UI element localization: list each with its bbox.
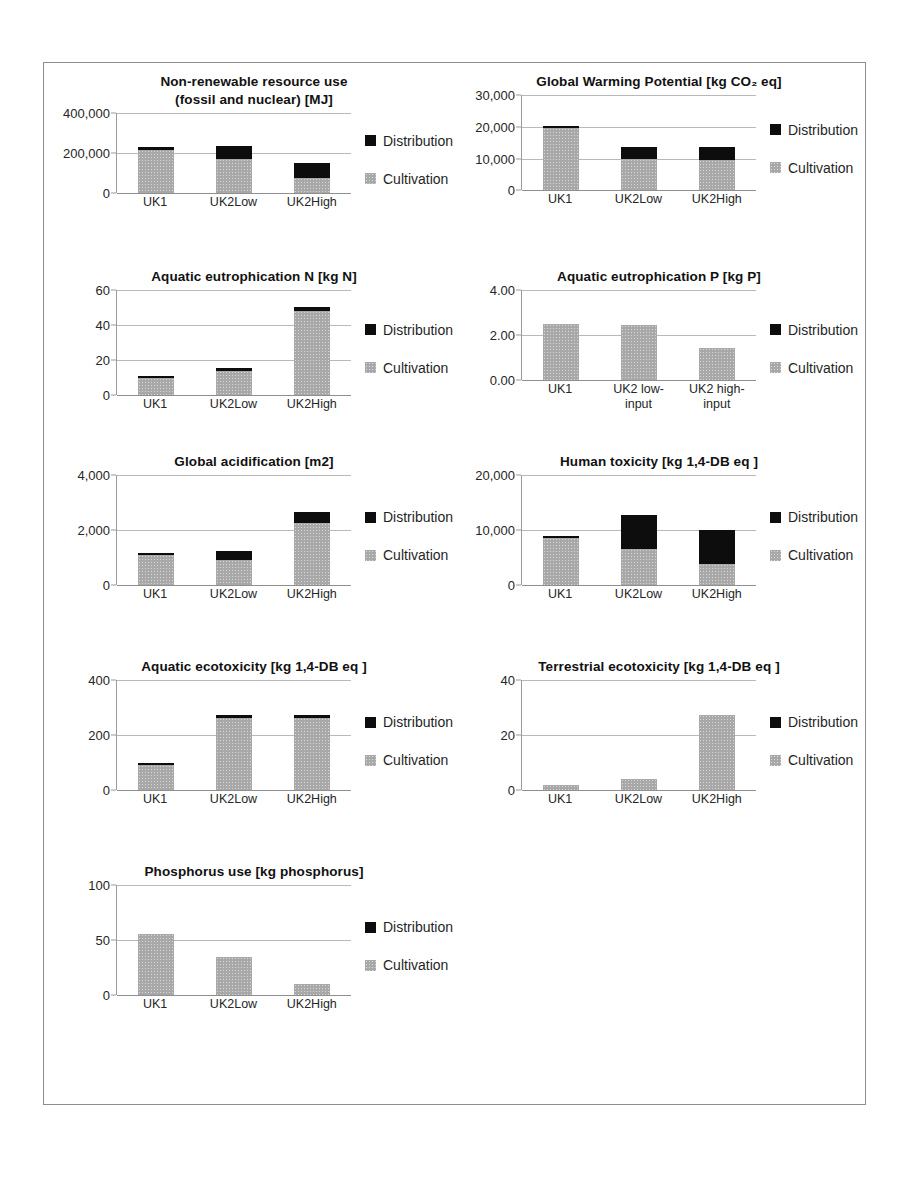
bar-segment-cultivation <box>138 378 174 396</box>
bar-segment-cultivation <box>294 523 330 585</box>
stacked-bar[interactable] <box>621 779 657 790</box>
legend-item-distribution[interactable]: Distribution <box>770 122 858 138</box>
stacked-bar[interactable] <box>138 553 174 585</box>
x-axis-line <box>522 190 756 191</box>
x-axis-line <box>117 995 351 996</box>
legend-swatch-cultivation-icon <box>365 960 376 971</box>
stacked-bar[interactable] <box>138 763 174 790</box>
y-tick-label: 40 <box>96 318 110 333</box>
stacked-bar[interactable] <box>216 368 252 396</box>
legend-item-cultivation[interactable]: Cultivation <box>365 957 453 973</box>
legend-swatch-distribution-icon <box>770 512 781 523</box>
bar-segment-cultivation <box>216 957 252 996</box>
stacked-bar[interactable] <box>699 715 735 791</box>
x-tick-label: UK2High <box>273 792 351 806</box>
y-tick-label: 0 <box>103 783 110 798</box>
bar-segment-cultivation <box>138 555 174 585</box>
plot-area-global-warming-potential: 010,00020,00030,000 <box>459 95 756 190</box>
legend-item-distribution[interactable]: Distribution <box>365 714 453 730</box>
stacked-bar[interactable] <box>621 515 657 585</box>
stacked-bar[interactable] <box>699 348 735 381</box>
plot-canvas-phosphorus-use <box>116 885 351 995</box>
x-axis-human-toxicity: UK1UK2LowUK2High <box>521 587 756 601</box>
x-tick-label: UK2Low <box>194 792 272 806</box>
bar-slot <box>273 290 351 395</box>
bar-segment-cultivation <box>699 348 735 381</box>
legend-aquatic-ecotoxicity: DistributionCultivation <box>351 714 453 768</box>
legend-item-distribution[interactable]: Distribution <box>770 509 858 525</box>
legend-label-cultivation: Cultivation <box>788 360 853 376</box>
x-tick-label: UK2 high- input <box>678 382 756 411</box>
y-tick-label: 400 <box>88 673 110 688</box>
legend-item-distribution[interactable]: Distribution <box>365 322 453 338</box>
stacked-bar[interactable] <box>543 536 579 585</box>
stacked-bar[interactable] <box>216 146 252 193</box>
stacked-bar[interactable] <box>699 530 735 586</box>
legend-item-cultivation[interactable]: Cultivation <box>365 360 453 376</box>
bar-slot <box>600 475 678 585</box>
chart-title-aquatic-eutrophication-p: Aquatic eutrophication P [kg P] <box>459 268 859 286</box>
stacked-bar[interactable] <box>621 147 657 191</box>
stacked-bar[interactable] <box>138 934 174 996</box>
stacked-bar[interactable] <box>294 715 330 791</box>
stacked-bar[interactable] <box>294 512 330 585</box>
stacked-bar[interactable] <box>216 551 252 585</box>
plot-area-global-acidification: 02,0004,000 <box>54 475 351 585</box>
stacked-bar[interactable] <box>294 984 330 995</box>
x-axis-global-warming-potential: UK1UK2LowUK2High <box>521 192 756 206</box>
bar-slot <box>117 680 195 790</box>
legend-item-cultivation[interactable]: Cultivation <box>770 752 858 768</box>
legend-item-cultivation[interactable]: Cultivation <box>770 160 858 176</box>
legend-item-distribution[interactable]: Distribution <box>365 509 453 525</box>
bar-segment-cultivation <box>543 128 579 190</box>
stacked-bar[interactable] <box>699 147 735 191</box>
stacked-bar[interactable] <box>138 147 174 193</box>
stacked-bar[interactable] <box>138 376 174 396</box>
stacked-bar[interactable] <box>543 126 579 190</box>
bar-group-phosphorus-use <box>117 885 351 995</box>
stacked-bar[interactable] <box>621 325 657 380</box>
legend-swatch-distribution-icon <box>770 324 781 335</box>
plot-area-phosphorus-use: 050100 <box>54 885 351 995</box>
legend-item-distribution[interactable]: Distribution <box>770 322 858 338</box>
chart-body-phosphorus-use: 050100UK1UK2LowUK2HighDistributionCultiv… <box>54 885 454 1011</box>
bar-segment-cultivation <box>216 560 252 585</box>
bar-segment-distribution <box>216 551 252 561</box>
legend-item-cultivation[interactable]: Cultivation <box>365 547 453 563</box>
bar-segment-distribution <box>621 147 657 160</box>
x-axis-line <box>522 380 756 381</box>
stacked-bar[interactable] <box>216 715 252 790</box>
y-tick-label: 2.00 <box>490 328 515 343</box>
bar-slot <box>600 95 678 190</box>
y-tick-label: 20 <box>96 353 110 368</box>
legend-label-distribution: Distribution <box>788 122 858 138</box>
legend-label-cultivation: Cultivation <box>788 160 853 176</box>
plot-area-non-renewable-resource-use: 0200,000400,000 <box>54 113 351 193</box>
legend-label-cultivation: Cultivation <box>383 957 448 973</box>
legend-item-distribution[interactable]: Distribution <box>365 133 453 149</box>
legend-item-distribution[interactable]: Distribution <box>770 714 858 730</box>
legend-item-cultivation[interactable]: Cultivation <box>365 752 453 768</box>
stacked-bar[interactable] <box>543 785 579 791</box>
plot-column-global-acidification: 02,0004,000UK1UK2LowUK2High <box>54 475 351 601</box>
x-tick-label: UK2Low <box>194 997 272 1011</box>
stacked-bar[interactable] <box>543 324 579 380</box>
x-axis-global-acidification: UK1UK2LowUK2High <box>116 587 351 601</box>
legend-item-cultivation[interactable]: Cultivation <box>365 171 453 187</box>
x-tick-label: UK2 low- input <box>599 382 677 411</box>
stacked-bar[interactable] <box>294 307 330 395</box>
chart-title-global-warming-potential: Global Warming Potential [kg CO₂ eq] <box>459 73 859 91</box>
x-tick-label: UK2High <box>678 792 756 806</box>
bar-slot <box>522 475 600 585</box>
y-axis-phosphorus-use: 050100 <box>54 885 116 995</box>
legend-label-distribution: Distribution <box>788 714 858 730</box>
legend-item-cultivation[interactable]: Cultivation <box>770 547 858 563</box>
bar-segment-distribution <box>699 147 735 160</box>
stacked-bar[interactable] <box>216 957 252 996</box>
legend-item-cultivation[interactable]: Cultivation <box>770 360 858 376</box>
stacked-bar[interactable] <box>294 163 330 193</box>
bar-segment-cultivation <box>294 718 330 790</box>
y-axis-non-renewable-resource-use: 0200,000400,000 <box>54 113 116 193</box>
bar-slot <box>195 475 273 585</box>
legend-item-distribution[interactable]: Distribution <box>365 919 453 935</box>
